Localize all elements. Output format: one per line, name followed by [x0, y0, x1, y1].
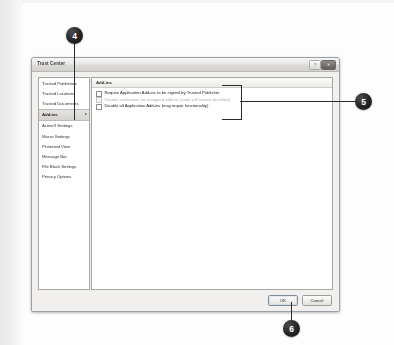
- ok-button[interactable]: OK: [268, 295, 298, 307]
- sidebar: Trusted Publishers Trusted Locations Tru…: [38, 77, 90, 290]
- checkbox-icon: [96, 97, 102, 103]
- callout-4: 4: [66, 27, 83, 44]
- cancel-button[interactable]: Cancel: [302, 295, 332, 307]
- callout-5-bracket: [222, 85, 242, 120]
- checkbox-row-disable-all-addins[interactable]: Disable all Application Add-ins (may imp…: [96, 103, 328, 110]
- sidebar-item-trusted-locations[interactable]: Trusted Locations: [39, 88, 89, 98]
- dialog-body: Trusted Publishers Trusted Locations Tru…: [32, 72, 339, 311]
- sidebar-item-activex-settings[interactable]: ActiveX Settings: [39, 121, 89, 131]
- callout-5-leader-line: [240, 101, 356, 102]
- sidebar-item-trusted-publishers[interactable]: Trusted Publishers: [39, 78, 89, 88]
- sidebar-item-trusted-documents[interactable]: Trusted Documents: [39, 98, 89, 108]
- page-left-margin-band: [0, 0, 22, 345]
- sidebar-item-privacy-options[interactable]: Privacy Options: [39, 172, 89, 182]
- close-icon[interactable]: ✕: [321, 60, 336, 70]
- checkbox-label: Disable notification for unsigned add-in…: [104, 97, 230, 102]
- checkbox-label: Disable all Application Add-ins (may imp…: [104, 103, 208, 108]
- sidebar-item-macro-settings[interactable]: Macro Settings: [39, 131, 89, 141]
- callout-4-leader-line: [74, 42, 75, 120]
- sidebar-item-protected-view[interactable]: Protected View: [39, 141, 89, 151]
- checkbox-icon[interactable]: [96, 91, 102, 97]
- settings-pane: Add-ins Require Application Add-ins to b…: [91, 77, 333, 290]
- pane-header: Add-ins: [92, 78, 332, 88]
- page-top-edge: [22, 0, 394, 3]
- sidebar-item-message-bar[interactable]: Message Bar: [39, 151, 89, 161]
- dialog-title: Trust Center: [37, 61, 65, 66]
- checkbox-group: Require Application Add-ins to be signed…: [96, 90, 328, 110]
- sidebar-item-add-ins[interactable]: Add-ins: [39, 109, 89, 121]
- pane-title: Add-ins: [96, 80, 112, 85]
- checkbox-row-require-signed[interactable]: Require Application Add-ins to be signed…: [96, 90, 328, 97]
- trust-center-dialog: Trust Center ? ✕ Trusted Publishers Trus…: [31, 57, 340, 312]
- callout-6: 6: [283, 320, 300, 337]
- dialog-title-bar[interactable]: Trust Center ? ✕: [32, 58, 339, 72]
- callout-6-leader-line: [291, 302, 292, 322]
- sidebar-item-file-block-settings[interactable]: File Block Settings: [39, 162, 89, 172]
- checkbox-label: Require Application Add-ins to be signed…: [104, 90, 219, 95]
- checkbox-icon[interactable]: [96, 104, 102, 110]
- dialog-footer: OK Cancel: [268, 295, 332, 307]
- callout-5: 5: [355, 93, 372, 110]
- help-icon[interactable]: ?: [309, 60, 321, 70]
